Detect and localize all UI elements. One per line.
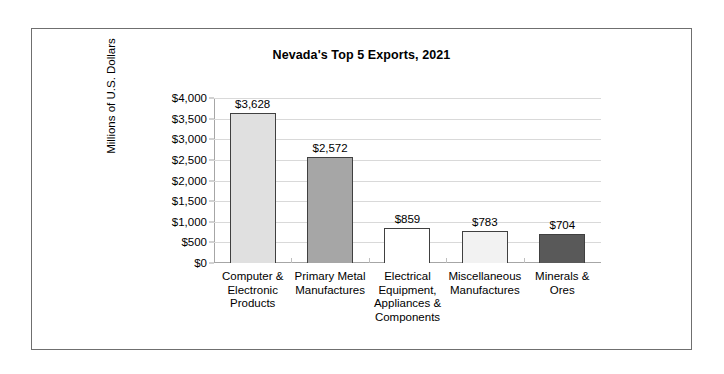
category-label-line: Electronic <box>227 284 278 296</box>
category-label-line: Manufactures <box>450 284 520 296</box>
bar-slot: $783MiscellaneousManufactures <box>446 98 523 263</box>
bar[interactable] <box>230 113 276 263</box>
y-tick-label: $2,000 <box>172 175 207 187</box>
category-label-line: Manufactures <box>295 284 365 296</box>
bar[interactable] <box>307 157 353 263</box>
bar-value-label: $783 <box>472 216 498 228</box>
y-tick-label: $0 <box>194 257 207 269</box>
y-tick-label: $2,500 <box>172 154 207 166</box>
x-axis-category-label: Primary MetalManufactures <box>288 270 372 297</box>
bar-slot: $2,572Primary MetalManufactures <box>291 98 368 263</box>
category-separator-tick <box>446 258 447 263</box>
category-label-line: Equipment, <box>378 284 436 296</box>
category-label-line: Electrical <box>384 270 431 282</box>
y-axis-title: Millions of U.S. Dollars <box>105 6 123 186</box>
category-label-line: Minerals & <box>535 270 589 282</box>
bar[interactable] <box>384 228 430 263</box>
x-axis-category-label: MiscellaneousManufactures <box>443 270 527 297</box>
category-label-line: Computer & <box>222 270 283 282</box>
bar-value-label: $704 <box>549 219 575 231</box>
y-tick-label: $3,500 <box>172 113 207 125</box>
chart-screenshot: Nevada's Top 5 Exports, 2021 Millions of… <box>0 0 724 374</box>
figure-frame: Nevada's Top 5 Exports, 2021 Millions of… <box>31 28 692 350</box>
bar[interactable] <box>462 231 508 263</box>
x-axis-category-label: Computer &ElectronicProducts <box>211 270 295 311</box>
y-tick-label: $500 <box>181 236 207 248</box>
category-label-line: Ores <box>550 284 575 296</box>
y-tick-label: $1,500 <box>172 195 207 207</box>
y-tick-label: $1,000 <box>172 216 207 228</box>
bar[interactable] <box>539 234 585 263</box>
x-axis-category-label: Minerals &Ores <box>520 270 604 297</box>
bar-slot: $859ElectricalEquipment,Appliances &Comp… <box>369 98 446 263</box>
bar-value-label: $859 <box>395 213 421 225</box>
category-separator-tick <box>524 258 525 263</box>
bar-slot: $704Minerals &Ores <box>524 98 601 263</box>
category-label-line: Appliances & <box>374 297 441 309</box>
bar-value-label: $3,628 <box>235 98 270 110</box>
plot-area: $4,000$3,500$3,000$2,500$2,000$1,500$1,0… <box>214 98 601 263</box>
category-separator-tick <box>291 258 292 263</box>
chart-title: Nevada's Top 5 Exports, 2021 <box>32 48 691 62</box>
category-separator-tick <box>369 258 370 263</box>
y-tick-label: $3,000 <box>172 133 207 145</box>
category-label-line: Components <box>375 311 440 323</box>
bar-slot: $3,628Computer &ElectronicProducts <box>214 98 291 263</box>
category-label-line: Products <box>230 297 275 309</box>
bar-value-label: $2,572 <box>312 142 347 154</box>
x-axis-category-label: ElectricalEquipment,Appliances &Componen… <box>365 270 449 324</box>
y-tick-label: $4,000 <box>172 92 207 104</box>
category-label-line: Miscellaneous <box>448 270 521 282</box>
category-label-line: Primary Metal <box>295 270 366 282</box>
